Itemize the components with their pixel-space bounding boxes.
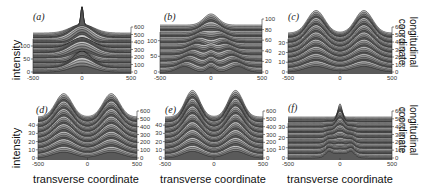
left-axis: 010203040 [28,122,38,161]
right-tick-label: 80 [265,27,272,33]
right-tick-label: 200 [395,54,406,60]
panel-f: 01020300100200300400500600-5000500(f) [278,102,405,167]
x-tick-label: -500 [154,75,167,81]
left-tick-label: 30 [28,130,35,136]
x-tick-label: 0 [338,161,342,167]
right-axis: 0100200300400500600 [392,108,406,161]
right-tick-label: 500 [134,32,145,38]
panel-label: (f) [288,102,298,114]
right-tick-label: 400 [266,124,277,130]
left-tick-label: 10 [278,145,285,151]
right-tick-label: 600 [140,108,151,114]
right-tick-label: 400 [395,124,406,130]
right-axis: 0100200300400500600 [131,24,145,75]
ylabel-intensity-bottom: intensity [10,127,22,168]
left-axis: 0102030 [278,123,288,161]
panel-a: 0501000100200300400500600-5000500(a) [20,7,145,81]
left-axis: 010203040 [155,122,165,161]
x-tick-label: 500 [132,161,143,167]
right-tick-label: 200 [395,139,406,145]
right-tick-label: 400 [395,39,406,45]
x-tick-label: -500 [159,161,172,167]
right-tick-label: 200 [134,54,145,60]
panel-label: (c) [288,11,300,23]
right-tick-label: 600 [395,108,406,114]
figure: intensity intensity longitudinal coordin… [0,0,436,186]
right-axis: 0100200300400500600 [263,108,277,161]
left-tick-label: 100 [20,43,31,49]
right-tick-label: 500 [266,116,277,122]
right-tick-label: 300 [140,132,151,138]
x-tick-label: 500 [387,75,398,81]
right-tick-label: 500 [395,116,406,122]
left-tick-label: 50 [23,56,30,62]
right-tick-label: 300 [395,132,406,138]
right-tick-label: 60 [265,37,272,43]
right-axis: 020406080100 [262,16,276,75]
right-tick-label: 600 [266,108,277,114]
zlabel-top-line1: longitudinal [408,17,419,68]
left-tick-label: 20 [278,135,285,141]
panel-e: 0102030400100200300400500600-5000500(e) [155,90,276,167]
x-tick-label: -500 [282,161,295,167]
right-tick-label: 100 [134,62,145,68]
x-tick-label: 0 [86,161,90,167]
left-tick-label: 100 [147,38,158,44]
panel-label: (a) [33,11,45,23]
x-tick-label: -500 [27,75,40,81]
x-tick-label: -500 [32,161,45,167]
right-tick-label: 200 [140,139,151,145]
x-tick-label: -500 [282,75,295,81]
x-tick-label: 0 [80,75,84,81]
left-tick-label: 20 [278,50,285,56]
right-tick-label: 100 [140,147,151,153]
xlabel-e: transverse coordinate [160,173,266,185]
x-tick-label: 500 [126,75,137,81]
panel-d: 0102030400100200300400500600-5000500(d) [28,94,150,167]
left-tick-label: 20 [155,139,162,145]
right-tick-label: 300 [395,47,406,53]
left-tick-label: 20 [28,139,35,145]
xlabel-f: transverse coordinate [287,173,393,185]
x-tick-label: 500 [258,161,269,167]
right-tick-label: 500 [395,32,406,38]
right-axis: 0100200300400500600 [137,108,151,161]
panel-c: 01020300100200300400500600-5000500(c) [278,11,405,82]
right-tick-label: 100 [265,16,276,22]
left-tick-label: 30 [278,40,285,46]
panel-label: (e) [165,104,177,116]
x-tick-label: 0 [209,75,213,81]
right-tick-label: 300 [266,132,277,138]
right-tick-label: 20 [265,58,272,64]
right-tick-label: 40 [265,48,272,54]
panel-label: (d) [36,104,48,116]
x-tick-label: 0 [338,75,342,81]
xlabel-d: transverse coordinate [33,173,139,185]
zlabel-bottom-line1: longitudinal [408,105,419,156]
left-axis: 050100 [147,32,160,75]
right-tick-label: 100 [395,62,406,68]
x-tick-label: 0 [212,161,216,167]
left-tick-label: 40 [28,122,35,128]
panel-b: 050100020406080100-5000500(b) [147,11,276,81]
panel-label: (b) [164,11,176,23]
left-axis: 0102030 [278,39,288,75]
right-tick-label: 400 [134,39,145,45]
right-tick-label: 100 [395,147,406,153]
left-tick-label: 10 [155,147,162,153]
panels: 0501000100200300400500600-5000500(a)0501… [20,7,406,167]
left-tick-label: 30 [278,124,285,130]
left-tick-label: 10 [278,59,285,65]
right-tick-label: 600 [134,24,145,30]
right-tick-label: 300 [134,47,145,53]
right-axis: 0100200300400500600 [392,24,406,75]
left-tick-label: 30 [155,130,162,136]
x-tick-label: 500 [257,75,268,81]
right-tick-label: 600 [395,24,406,30]
left-tick-label: 10 [28,147,35,153]
right-tick-label: 400 [140,124,151,130]
left-tick-label: 50 [150,53,157,59]
right-tick-label: 100 [266,147,277,153]
right-tick-label: 200 [266,139,277,145]
right-tick-label: 500 [140,116,151,122]
